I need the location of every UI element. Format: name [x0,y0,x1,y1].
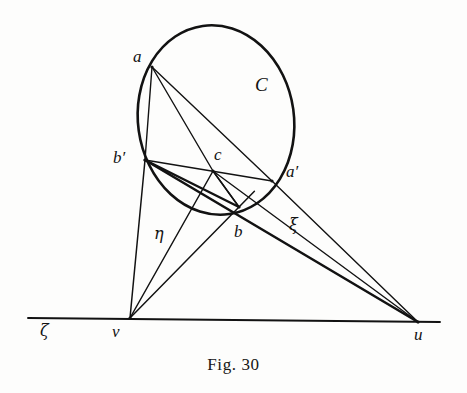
point-label-a: a [133,48,142,65]
line-label-xi: ξ [289,217,298,233]
point-marker-a_prime [270,179,273,182]
ray-v-b [130,207,239,318]
baseline-zeta [28,318,440,322]
point-label-c: c [214,146,222,163]
ray-a_prime-u [272,181,418,322]
baseline-line [28,318,440,322]
point-label-b_prime: b′ [113,149,125,166]
point-label-b: b [234,223,243,240]
ray-c-u [213,171,418,322]
point-marker-b [237,205,240,208]
point-label-u: u [414,326,423,343]
curve-label-C: C [255,75,268,94]
point-label-v: v [112,323,120,340]
chord-a-b_prime [145,67,152,160]
figure-container: ab′ca′bvuηξζC Fig. 30 [0,0,467,393]
chord-b_prime-b [145,160,239,207]
point-label-a_prime: a′ [286,163,298,180]
geometry-diagram [0,0,467,393]
projection-rays [130,160,418,322]
ray-b_prime-u [145,160,418,322]
point-marker-v [128,316,131,319]
figure-caption: Fig. 30 [0,355,467,375]
line-label-eta: η [154,226,164,242]
conic-curve-C [126,15,307,225]
point-marker-b_prime [143,158,146,161]
point-marker-a [150,65,153,68]
chord-a-c [152,67,213,171]
curve-C-outline [126,15,307,225]
point-marker-c [211,169,214,172]
point-marker-u [416,320,419,323]
line-label-zeta: ζ [40,323,49,339]
